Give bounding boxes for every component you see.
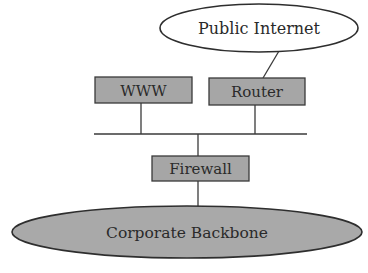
router-label: Router	[231, 83, 284, 101]
public-internet-label: Public Internet	[198, 19, 321, 38]
node-router[interactable]: Router	[209, 78, 305, 105]
network-diagram: Public Internet WWW Router Firewall Corp…	[0, 0, 368, 273]
node-corporate-backbone[interactable]: Corporate Backbone	[12, 206, 362, 258]
corporate-backbone-label: Corporate Backbone	[106, 224, 268, 242]
node-firewall[interactable]: Firewall	[152, 156, 249, 181]
node-public-internet[interactable]: Public Internet	[160, 4, 358, 52]
node-www[interactable]: WWW	[95, 77, 192, 103]
edge-router-internet	[263, 51, 279, 78]
www-label: WWW	[120, 82, 167, 100]
firewall-label: Firewall	[169, 160, 232, 178]
